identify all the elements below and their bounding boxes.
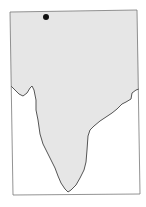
india-map bbox=[0, 0, 146, 207]
location-marker-icon bbox=[43, 14, 49, 20]
